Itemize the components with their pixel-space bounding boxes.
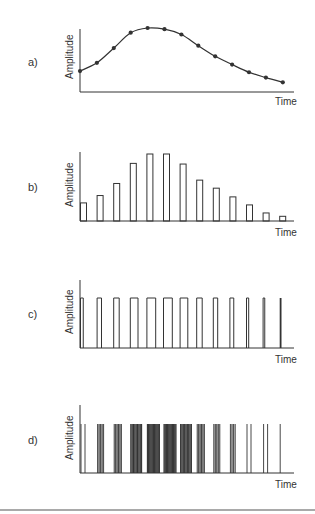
pwm-pulse — [164, 298, 173, 348]
x-axis-label-b: Time — [275, 227, 297, 238]
pwm-pulse — [280, 298, 282, 348]
y-axis-label-d: Amplitude — [64, 415, 75, 460]
pam-bar — [147, 154, 153, 221]
pulse-group-fill — [147, 424, 159, 473]
sample-dot — [230, 62, 234, 66]
panel-label-d: d) — [28, 434, 38, 446]
pulse-group-fill — [114, 424, 121, 473]
y-axis-label-c: Amplitude — [64, 289, 75, 334]
pulse-group-fill — [98, 424, 104, 473]
y-axis-label-b: Amplitude — [64, 162, 75, 207]
panel-a: a) Amplitude Time — [28, 26, 297, 107]
pam-bar — [81, 203, 87, 221]
pam-bar — [280, 216, 286, 221]
sample-dots — [78, 26, 285, 84]
pam-bar — [114, 183, 120, 221]
sample-dot — [112, 46, 116, 50]
sample-dot — [162, 27, 166, 31]
pulse-group-fill — [131, 424, 142, 473]
pwm-pulse — [263, 298, 265, 348]
panel-label-a: a) — [28, 56, 38, 68]
pam-bar — [197, 180, 203, 221]
pwm-pulse — [81, 298, 84, 348]
panel-c: c) Amplitude Time — [28, 280, 297, 365]
pwm-pulse — [230, 298, 234, 348]
pam-bar — [247, 205, 253, 221]
sample-dot — [281, 80, 285, 84]
pwm-pulse — [114, 298, 120, 348]
pwm-pulses — [81, 298, 282, 348]
pulse-group-fill — [197, 424, 204, 473]
pulse-group-fill — [181, 424, 192, 473]
panel-d: d) Amplitude Time — [28, 405, 297, 490]
pwm-pulse — [197, 298, 203, 348]
sample-dot — [213, 54, 217, 58]
pulse-group-fill — [214, 424, 220, 473]
pam-bar — [130, 163, 136, 221]
pwm-pulse — [213, 298, 217, 348]
pam-bar — [164, 154, 170, 221]
sample-dot — [129, 31, 133, 35]
pulse-group-fill — [230, 424, 235, 473]
pam-bar — [263, 213, 269, 221]
x-axis-label-c: Time — [275, 354, 297, 365]
panel-b: b) Amplitude Time — [28, 152, 297, 238]
x-axis-label-d: Time — [275, 479, 297, 490]
pam-bar — [97, 196, 103, 221]
pam-bar — [180, 164, 186, 221]
pwm-pulse — [247, 298, 249, 348]
panel-label-c: c) — [28, 308, 37, 320]
pcm-pulses — [81, 424, 280, 473]
pam-bar — [213, 188, 219, 221]
sample-dot — [179, 32, 183, 36]
sample-dot — [95, 61, 99, 65]
sample-dot — [78, 69, 82, 73]
panel-label-b: b) — [28, 181, 38, 193]
sample-dot — [196, 44, 200, 48]
sample-dot — [146, 26, 150, 30]
sample-dot — [264, 75, 268, 79]
pwm-pulse — [147, 298, 156, 348]
pwm-pulse — [180, 298, 188, 348]
sample-dot — [247, 70, 251, 74]
figure-canvas: a) Amplitude Time b) Amplitude Time c) A… — [0, 0, 315, 514]
pam-bar — [230, 197, 236, 221]
x-axis-label-a: Time — [275, 96, 297, 107]
pam-bars — [81, 154, 286, 221]
y-axis-label-a: Amplitude — [64, 34, 75, 79]
pulse-group-fill — [164, 424, 176, 473]
pwm-pulse — [130, 298, 138, 348]
pwm-pulse — [97, 298, 101, 348]
